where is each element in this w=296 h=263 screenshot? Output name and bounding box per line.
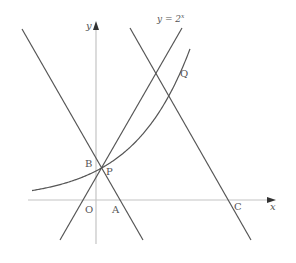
curve-label-base: y = 2	[156, 14, 181, 24]
line-QC	[130, 28, 251, 240]
diagram-canvas: y x y = 2x B P O A C Q	[0, 0, 296, 263]
point-label-B: B	[85, 158, 92, 169]
curve-label: y = 2x	[156, 12, 185, 24]
line-BA	[22, 29, 143, 240]
curve-label-exponent: x	[181, 12, 185, 19]
y-axis-arrow-icon	[93, 21, 99, 30]
point-label-Q: Q	[180, 68, 188, 79]
point-label-C: C	[234, 201, 242, 212]
x-axis-label: x	[270, 201, 276, 212]
line-PQ	[60, 28, 182, 240]
y-axis-label: y	[85, 20, 92, 31]
point-label-O: O	[85, 204, 93, 215]
point-label-A: A	[111, 204, 120, 215]
point-label-P: P	[106, 166, 113, 177]
